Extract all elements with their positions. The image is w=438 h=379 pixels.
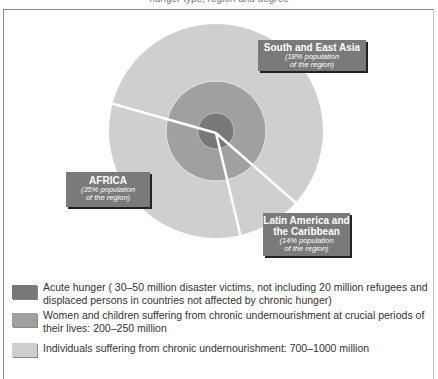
hunger-rings-diagram bbox=[0, 0, 438, 280]
region-label-latin-america: Latin America and the Caribbean (14% pop… bbox=[263, 213, 350, 256]
region-name: Latin America and bbox=[263, 215, 350, 226]
legend-item-acute: Acute hunger ( 30–50 million disaster vi… bbox=[12, 281, 433, 306]
legend-swatch-medium bbox=[12, 313, 37, 327]
region-pct-cont: of the region) bbox=[263, 245, 350, 253]
legend-item-chronic: Individuals suffering from chronic under… bbox=[12, 339, 433, 357]
legend-swatch-light bbox=[12, 343, 37, 357]
legend-label: Individuals suffering from chronic under… bbox=[43, 342, 433, 355]
region-label-south-east-asia: South and East Asia (18% population of t… bbox=[258, 40, 366, 71]
legend-swatch-dark bbox=[12, 285, 37, 299]
legend-label: Acute hunger ( 30–50 million disaster vi… bbox=[43, 281, 433, 306]
region-pct-cont: of the region) bbox=[258, 61, 366, 69]
legend-label: Women and children suffering from chroni… bbox=[43, 309, 433, 334]
region-pct-cont: of the region) bbox=[66, 194, 150, 202]
region-label-africa: AFRICA (35% population of the region) bbox=[66, 172, 150, 207]
legend-item-women-children: Women and children suffering from chroni… bbox=[12, 309, 433, 334]
